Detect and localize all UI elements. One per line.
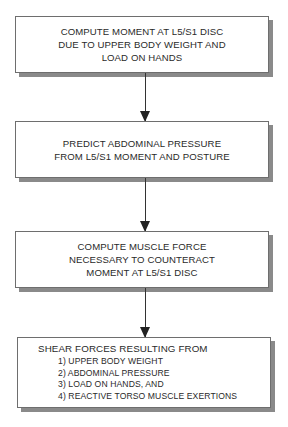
step-heading: SHEAR FORCES RESULTING FROM [38,343,208,356]
step-text-line: LOAD ON HANDS [102,51,183,64]
step-text-line: NECESSARY TO COUNTERACT [69,253,215,266]
arrow-down-icon [145,288,146,337]
flow-step-compute-moment: COMPUTE MOMENT AT L5/S1 DISC DUE TO UPPE… [15,16,269,73]
step-text-line: MOMENT AT L5/S1 DISC [86,266,197,279]
flow-step-predict-abdominal-pressure: PREDICT ABDOMINAL PRESSURE FROM L5/S1 MO… [15,121,269,178]
step-text-line: DUE TO UPPER BODY WEIGHT AND [58,38,225,51]
flow-step-compute-muscle-force: COMPUTE MUSCLE FORCE NECESSARY TO COUNTE… [15,231,269,288]
list-item: 3) LOAD ON HANDS, AND [38,379,164,391]
list-item: 2) ABDOMINAL PRESSURE [38,368,170,380]
step-text-line: PREDICT ABDOMINAL PRESSURE [63,137,221,150]
step-text-line: COMPUTE MOMENT AT L5/S1 DISC [61,25,224,38]
flow-step-shear-forces: SHEAR FORCES RESULTING FROM 1) UPPER BOD… [17,337,271,408]
arrow-down-icon [145,73,146,121]
list-item: 4) REACTIVE TORSO MUSCLE EXERTIONS [38,391,237,403]
list-item: 1) UPPER BODY WEIGHT [38,356,163,368]
step-text-line: FROM L5/S1 MOMENT AND POSTURE [54,150,229,163]
step-text-line: COMPUTE MUSCLE FORCE [78,240,207,253]
arrow-down-icon [145,178,146,231]
